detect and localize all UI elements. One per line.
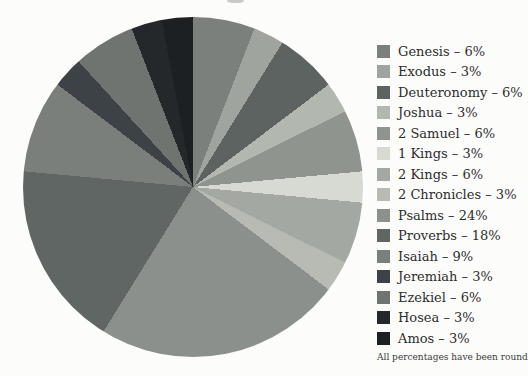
legend-item: Jeremiah – 3% [377,267,527,288]
legend-item: Amos – 3% [377,328,527,349]
legend-label: Amos – 3% [398,332,470,345]
legend-item: Hosea – 3% [377,308,527,329]
legend: Genesis – 6%Exodus – 3%Deuteronomy – 6%J… [377,41,527,362]
legend-item: 1 Kings – 3% [377,144,527,165]
legend-swatch [377,86,390,99]
legend-label: Jeremiah – 3% [398,270,493,283]
legend-swatch [377,209,390,222]
legend-item: Isaiah – 9% [377,246,527,267]
legend-label: 1 Kings – 3% [398,147,483,160]
legend-label: Genesis – 6% [398,45,485,58]
legend-label: Hosea – 3% [398,311,475,324]
legend-label: Joshua – 3% [398,106,478,119]
legend-swatch [377,106,390,119]
legend-item: Exodus – 3% [377,62,527,83]
legend-swatch [377,147,390,160]
legend-swatch [377,311,390,324]
legend-label: 2 Samuel – 6% [398,127,495,140]
legend-item: 2 Samuel – 6% [377,123,527,144]
legend-item: Deuteronomy – 6% [377,82,527,103]
legend-item: Proverbs – 18% [377,226,527,247]
legend-swatch [377,270,390,283]
legend-item: Psalms – 24% [377,205,527,226]
legend-item: 2 Chronicles – 3% [377,185,527,206]
legend-label: Psalms – 24% [398,209,488,222]
legend-item: 2 Kings – 6% [377,164,527,185]
legend-item: Ezekiel – 6% [377,287,527,308]
legend-note: All percentages have been rounded. [377,352,527,362]
legend-label: 2 Kings – 6% [398,168,483,181]
legend-swatch [377,127,390,140]
legend-label: 2 Chronicles – 3% [398,188,517,201]
legend-swatch [377,188,390,201]
legend-swatch [377,291,390,304]
legend-label: Ezekiel – 6% [398,291,481,304]
legend-swatch [377,332,390,345]
legend-list: Genesis – 6%Exodus – 3%Deuteronomy – 6%J… [377,41,527,349]
legend-swatch [377,250,390,263]
legend-swatch [377,229,390,242]
legend-label: Isaiah – 9% [398,250,473,263]
legend-item: Joshua – 3% [377,103,527,124]
legend-swatch [377,65,390,78]
legend-swatch [377,45,390,58]
cropped-title-fragment [227,0,244,3]
legend-label: Exodus – 3% [398,65,481,78]
legend-label: Deuteronomy – 6% [398,86,523,99]
legend-item: Genesis – 6% [377,41,527,62]
legend-swatch [377,168,390,181]
pie-chart [23,17,363,357]
legend-label: Proverbs – 18% [398,229,501,242]
